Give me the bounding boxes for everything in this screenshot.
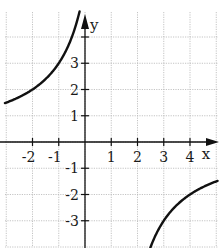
x-tick-label: -2 xyxy=(22,149,36,165)
x-axis-label: x xyxy=(202,145,211,163)
x-tick-label: 2 xyxy=(133,149,142,165)
y-tick-label: -2 xyxy=(65,187,79,203)
grid xyxy=(5,12,218,247)
curve-right-branch xyxy=(150,181,217,248)
y-tick-label: 3 xyxy=(70,55,79,71)
y-tick-label: 2 xyxy=(70,82,79,98)
y-tick-label: -1 xyxy=(65,160,79,176)
x-tick-label: -1 xyxy=(48,149,62,165)
y-axis-label: y xyxy=(89,16,99,34)
x-tick-label: 3 xyxy=(159,149,168,165)
x-tick-label: 1 xyxy=(107,149,116,165)
y-axis-arrow-icon xyxy=(81,14,89,29)
x-tick-label: 4 xyxy=(186,149,195,165)
function-graph: -2-11234-3-2-1123xy xyxy=(0,0,220,248)
tick-labels: -2-11234-3-2-1123xy xyxy=(22,16,211,229)
y-tick-label: -3 xyxy=(65,213,79,229)
y-tick-label: 1 xyxy=(70,108,79,124)
